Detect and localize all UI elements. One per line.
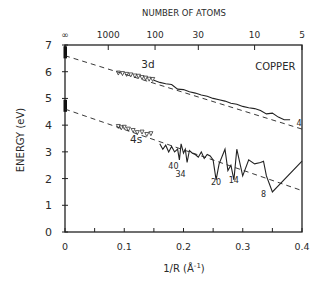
x-axis-title-close: )	[201, 263, 205, 274]
top-tick-label: 100	[146, 30, 163, 40]
annotation-label: 4	[296, 119, 301, 128]
x-tick-label: 0.1	[117, 241, 132, 252]
triangle-marker	[122, 125, 126, 129]
x-tick-label: 0.4	[294, 241, 309, 252]
triangle-marker	[149, 132, 153, 136]
x-axis-title-sup: -1	[194, 262, 201, 270]
top-axis-title-text: NUMBER OF ATOMS	[142, 8, 226, 18]
triangle-marker	[120, 72, 124, 76]
triangle-marker	[145, 132, 149, 136]
triangle-marker	[116, 71, 120, 75]
y-axis-title: ENERGY (eV)	[15, 108, 26, 172]
annotation-label: 34	[175, 170, 185, 179]
y-tick-label: 4	[45, 119, 52, 132]
annotation-label: 3d	[141, 58, 154, 70]
triangle-marker	[144, 76, 148, 80]
data-line	[154, 80, 290, 120]
y-tick-label: 0	[45, 226, 52, 239]
top-tick-label: 10	[249, 30, 261, 40]
y-tick-label: 5	[45, 92, 52, 105]
y-tick-label: 6	[45, 66, 52, 79]
annotation-label: 8	[261, 190, 266, 199]
plot-frame	[65, 45, 302, 232]
y-tick-label: 1	[45, 199, 52, 212]
copper-energy-chart: NUMBER OF ATOMS ∞100010030105 01234567 0…	[0, 0, 325, 282]
x-tick-label: 0.2	[176, 241, 191, 252]
annotation-label: COPPER	[255, 61, 295, 72]
top-tick-label: 30	[193, 30, 205, 40]
annotation-label: 4s	[130, 133, 142, 145]
triangle-marker	[129, 73, 133, 77]
annotation-label: 20	[211, 178, 221, 187]
x-axis-title-main: 1/R (Å	[163, 262, 194, 274]
x-axis-title: 1/R (Å-1)	[163, 262, 205, 274]
annotations: 3d4sCOPPER4034201484	[130, 58, 302, 200]
top-tick-label: 1000	[97, 30, 120, 40]
y-tick-label: 2	[45, 173, 52, 186]
y-tick-label: 7	[45, 39, 52, 52]
top-tick-label: 5	[299, 30, 305, 40]
y-tick-label: 3	[45, 146, 52, 159]
x-tick-label: 0.3	[235, 241, 250, 252]
x-tick-label: 0	[62, 241, 68, 252]
annotation-label: 14	[229, 176, 239, 185]
top-axis-title: NUMBER OF ATOMS	[142, 8, 226, 18]
top-tick-label: ∞	[61, 30, 69, 40]
data-line	[160, 144, 302, 192]
top-axis-ticks: ∞100010030105	[61, 30, 305, 50]
